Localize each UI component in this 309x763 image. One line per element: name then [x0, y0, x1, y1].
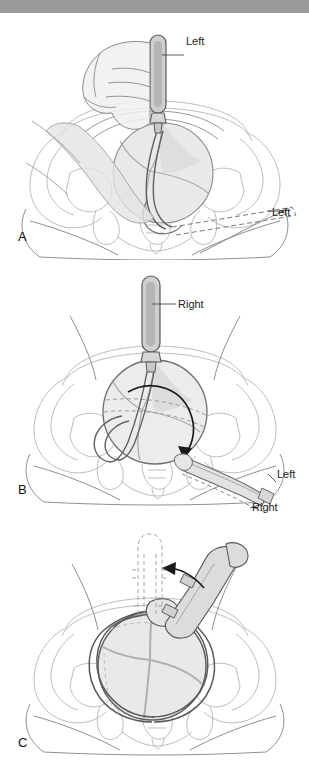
label-b-right-blade: Right [178, 298, 204, 310]
label-b-left-handle: Left [277, 468, 295, 480]
panel-c: C [0, 518, 309, 763]
panel-letter-c: C [18, 735, 28, 750]
panel-letter-a: A [18, 229, 27, 244]
panel-a: A [0, 13, 309, 260]
label-b-right-dashed-handle: Right [252, 501, 278, 513]
label-a-left-blade: Left [186, 35, 204, 47]
panel-b: B [0, 260, 309, 518]
figure-page: A [0, 0, 309, 763]
label-a-left-dashed-handle: Left [272, 206, 290, 218]
panel-letter-b: B [18, 482, 27, 497]
top-gray-bar [0, 0, 309, 13]
